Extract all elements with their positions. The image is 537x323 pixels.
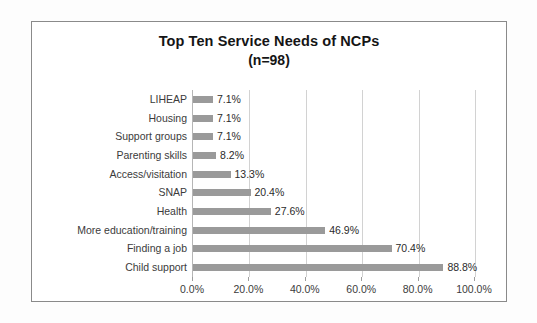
bar-value-label: 13.3% xyxy=(235,169,265,180)
bar[interactable] xyxy=(193,133,213,140)
category-label: Finding a job xyxy=(32,243,187,254)
bar-value-label: 27.6% xyxy=(275,206,305,217)
axis-tick-label: 0.0% xyxy=(180,283,204,295)
chart-title: Top Ten Service Needs of NCPs xyxy=(32,32,506,51)
category-label: LIHEAP xyxy=(32,94,187,105)
axis-tick xyxy=(418,277,419,281)
bar-value-label: 70.4% xyxy=(396,243,426,254)
category-label: Housing xyxy=(32,113,187,124)
category-label: Child support xyxy=(32,262,187,273)
chart-title-block: Top Ten Service Needs of NCPs (n=98) xyxy=(32,32,506,70)
bar-value-label: 7.1% xyxy=(217,131,241,142)
category-label: Parenting skills xyxy=(32,150,187,161)
axis-tick-label: 60.0% xyxy=(346,283,376,295)
plot-area: 7.1%7.1%7.1%8.2%13.3%20.4%27.6%46.9%70.4… xyxy=(192,90,475,277)
category-label: More education/training xyxy=(32,225,187,236)
gridline xyxy=(475,90,476,277)
axis-tick-label: 20.0% xyxy=(234,283,264,295)
chart-subtitle: (n=98) xyxy=(32,51,506,70)
bar[interactable] xyxy=(193,245,392,252)
bar-value-label: 7.1% xyxy=(217,113,241,124)
bar-value-label: 8.2% xyxy=(220,150,244,161)
bar[interactable] xyxy=(193,208,271,215)
bar[interactable] xyxy=(193,152,216,159)
axis-tick xyxy=(305,277,306,281)
category-label: Support groups xyxy=(32,131,187,142)
axis-tick-label: 100.0% xyxy=(456,283,492,295)
bar-value-label: 20.4% xyxy=(255,187,285,198)
bar[interactable] xyxy=(193,115,213,122)
bar[interactable] xyxy=(193,171,231,178)
axis-tick-label: 40.0% xyxy=(290,283,320,295)
axis-tick xyxy=(192,277,193,281)
value-axis: 0.0%20.0%40.0%60.0%80.0%100.0% xyxy=(192,277,474,302)
bar[interactable] xyxy=(193,96,213,103)
axis-tick-label: 80.0% xyxy=(403,283,433,295)
bar[interactable] xyxy=(193,189,251,196)
bar-value-label: 88.8% xyxy=(447,262,477,273)
category-label: SNAP xyxy=(32,187,187,198)
category-label: Health xyxy=(32,206,187,217)
plot-wrapper: LIHEAPHousingSupport groupsParenting ski… xyxy=(32,90,508,302)
axis-tick xyxy=(361,277,362,281)
bar[interactable] xyxy=(193,227,325,234)
axis-tick xyxy=(248,277,249,281)
bar-value-label: 46.9% xyxy=(329,225,359,236)
bar-value-label: 7.1% xyxy=(217,94,241,105)
category-label: Access/visitation xyxy=(32,169,187,180)
chart-container: Top Ten Service Needs of NCPs (n=98) LIH… xyxy=(31,21,507,302)
category-axis: LIHEAPHousingSupport groupsParenting ski… xyxy=(32,90,187,277)
bar[interactable] xyxy=(193,264,443,271)
axis-tick xyxy=(474,277,475,281)
